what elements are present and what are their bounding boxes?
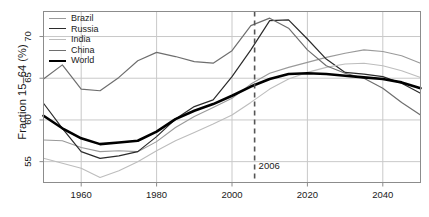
legend-item-russia[interactable]: Russia: [49, 24, 99, 35]
legend-item-world[interactable]: World: [49, 55, 99, 66]
legend-swatch-icon: [49, 18, 66, 19]
legend-item-india[interactable]: India: [49, 34, 99, 45]
chart-legend: BrazilRussiaIndiaChinaWorld: [49, 13, 99, 66]
legend-item-label: India: [71, 34, 91, 45]
legend-item-label: China: [71, 45, 95, 56]
legend-swatch-icon: [49, 50, 66, 51]
legend-swatch-icon: [49, 60, 66, 62]
legend-item-china[interactable]: China: [49, 45, 99, 56]
legend-item-label: World: [71, 55, 94, 66]
legend-item-label: Brazil: [71, 13, 94, 24]
year-marker-label: 2006: [259, 160, 280, 171]
legend-swatch-icon: [49, 28, 66, 29]
chart-figure: Fraction 15–64 (%) 55606570 196019802000…: [0, 0, 429, 217]
legend-swatch-icon: [49, 39, 66, 40]
legend-item-label: Russia: [71, 24, 99, 35]
legend-item-brazil[interactable]: Brazil: [49, 13, 99, 24]
